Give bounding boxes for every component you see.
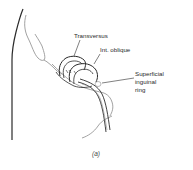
label-superficial-ring-line1: Superficial — [135, 70, 164, 77]
transversus-leader — [74, 40, 80, 56]
label-int-oblique: Int. oblique — [100, 46, 130, 53]
int-oblique-arch-inner — [74, 69, 93, 84]
thigh-contour — [82, 116, 112, 138]
label-superficial-ring-line3: ring — [135, 86, 145, 93]
label-superficial-ring-line2: inguinal — [135, 78, 156, 85]
figure-caption: (a) — [92, 150, 100, 157]
inguinal-canal-diagram — [0, 0, 193, 170]
hand-outline — [25, 15, 45, 60]
superficial-ring-leader — [102, 78, 134, 83]
abdomen-contour — [52, 64, 113, 116]
label-transversus: Transversus — [74, 32, 108, 39]
int-oblique-leader — [94, 54, 100, 64]
trunk-outline — [12, 9, 23, 140]
transversus-arch-inner — [63, 61, 82, 78]
superficial-ring-marker — [95, 82, 101, 87]
spermatic-cord-mid — [82, 84, 107, 130]
hatch-marks — [66, 70, 76, 74]
spermatic-cord-left — [78, 82, 106, 132]
